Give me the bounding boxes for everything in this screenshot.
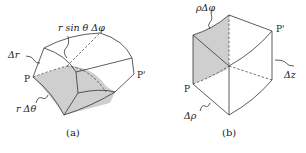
hidden-edge (67, 33, 100, 66)
label-point-p: P (24, 74, 30, 84)
edge (100, 33, 132, 58)
label-point-p-prime: P' (276, 24, 285, 34)
edge (229, 31, 272, 66)
edge (115, 74, 134, 92)
leader-rho-delta-phi (209, 13, 212, 29)
leader-delta-z (275, 60, 294, 66)
edge (44, 33, 100, 48)
edge (132, 58, 134, 74)
label-delta-r: Δr (7, 49, 21, 60)
leader-delta-rho (200, 103, 210, 111)
cylindrical-volume-element: ρΔφ Δz Δρ P P' (b) (183, 2, 297, 138)
label-delta-rho: Δρ (183, 110, 197, 121)
volume-elements-diagram: r sin θ Δφ Δr r Δθ P P' (a) ρΔφ Δz Δρ P … (0, 0, 306, 153)
caption-b: (b) (222, 127, 236, 138)
edge (76, 58, 132, 72)
label-rho-delta-phi: ρΔφ (195, 2, 215, 13)
label-point-p: P (184, 84, 190, 94)
label-delta-z: Δz (283, 69, 297, 80)
label-r-delta-theta: r Δθ (16, 103, 36, 114)
shaded-face-b (193, 15, 229, 84)
label-point-p-prime: P' (137, 70, 146, 80)
leader-delta-r (26, 56, 40, 63)
edge (229, 80, 272, 115)
edge (229, 15, 272, 31)
label-r-sin-theta-dphi: r sin θ Δφ (58, 22, 105, 33)
spherical-volume-element: r sin θ Δφ Δr r Δθ P P' (a) (7, 22, 146, 138)
edge (33, 48, 44, 77)
edge (193, 84, 229, 115)
hidden-edge (229, 66, 272, 80)
leader-r-delta-theta (36, 95, 48, 103)
caption-a: (a) (66, 127, 80, 138)
